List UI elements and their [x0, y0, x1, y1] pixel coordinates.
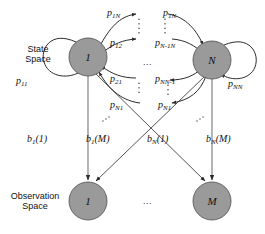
emission-sub: N — [211, 138, 216, 146]
state-node-N-label: N — [208, 54, 215, 66]
emission-label-b-N-1: bN(1) — [147, 134, 168, 145]
transition-sub: NN-1 — [160, 78, 175, 86]
transition-sub: N-1N — [160, 42, 175, 50]
emission-sub: N — [152, 138, 157, 146]
emission-label-b-1-1: b1(1) — [27, 134, 47, 145]
emission-edge-N-to-1 — [96, 77, 204, 181]
transition-sub: N1 — [163, 104, 171, 112]
observation-space-caption-line2: Space — [2, 202, 68, 212]
transition-sub: 12 — [115, 42, 122, 50]
emission-edges — [88, 76, 212, 180]
transition-label-p-1N-left: p1N — [107, 8, 120, 19]
emission-label-b-1-M: b1(M) — [86, 134, 110, 145]
transition-label-p-21: p21 — [110, 74, 122, 85]
transition-sub: 1N — [168, 12, 176, 20]
diag-dot — [196, 120, 197, 121]
emission-arg: (1) — [157, 133, 169, 144]
emission-sub: 1 — [91, 138, 95, 146]
observation-node-M-label: M — [207, 195, 216, 207]
diag-dot — [199, 118, 200, 119]
transition-label-p-12: p12 — [110, 38, 122, 49]
state-node-1-label: 1 — [85, 51, 91, 63]
emission-arg: (M) — [95, 133, 110, 144]
diag-dot — [108, 116, 109, 117]
transition-label-p-NN-1: pNN-1 — [155, 74, 175, 85]
transition-sub: NN — [233, 83, 242, 91]
diag-dot — [105, 118, 106, 119]
state-space-caption-line2: Space — [12, 55, 64, 65]
emission-label-b-N-M: bN(M) — [206, 134, 231, 145]
observation-space-ellipsis: ... — [143, 196, 152, 206]
transition-label-p-1N-right: p1N — [163, 8, 176, 19]
transition-sub: N1 — [115, 104, 123, 112]
emission-arg: (M) — [216, 133, 231, 144]
transition-label-p-NN: pNN — [228, 79, 242, 90]
diag-dot — [102, 120, 103, 121]
state-space-caption: State Space — [12, 45, 64, 64]
observation-space-caption: Observation Space — [2, 192, 68, 211]
observation-node-1-label: 1 — [85, 195, 91, 207]
diagonal-dot-groups — [102, 116, 203, 121]
transition-sub: 1N — [112, 12, 120, 20]
transition-label-p-N-1N: pN-1N — [155, 38, 175, 49]
transition-label-p-N1-right: pN1 — [158, 100, 171, 111]
transition-label-p-11: p11 — [16, 76, 27, 87]
transition-sub: 21 — [115, 78, 122, 86]
hmm-diagram: 1 N 1 M State Space Observation Space ..… — [0, 0, 265, 234]
transition-sub: 11 — [21, 80, 27, 88]
state-space-ellipsis: ... — [143, 57, 152, 67]
transition-label-p-N1-left: pN1 — [110, 100, 123, 111]
diag-dot — [202, 116, 203, 117]
emission-arg: (1) — [36, 133, 48, 144]
emission-sub: 1 — [32, 138, 36, 146]
